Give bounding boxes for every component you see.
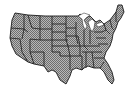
- us-outline: [10, 5, 124, 84]
- us-map: [0, 0, 130, 92]
